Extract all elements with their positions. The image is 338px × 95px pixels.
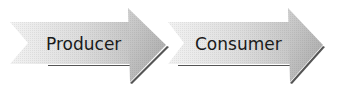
producer-arrow-shadow bbox=[48, 65, 130, 66]
producer-label: Producer bbox=[46, 34, 121, 54]
consumer-arrow: Consumer bbox=[168, 8, 325, 84]
process-flow-diagram: Producer Consumer bbox=[0, 0, 338, 95]
consumer-arrow-shadow bbox=[178, 65, 292, 66]
producer-arrow: Producer bbox=[10, 8, 169, 84]
consumer-label: Consumer bbox=[195, 34, 282, 54]
